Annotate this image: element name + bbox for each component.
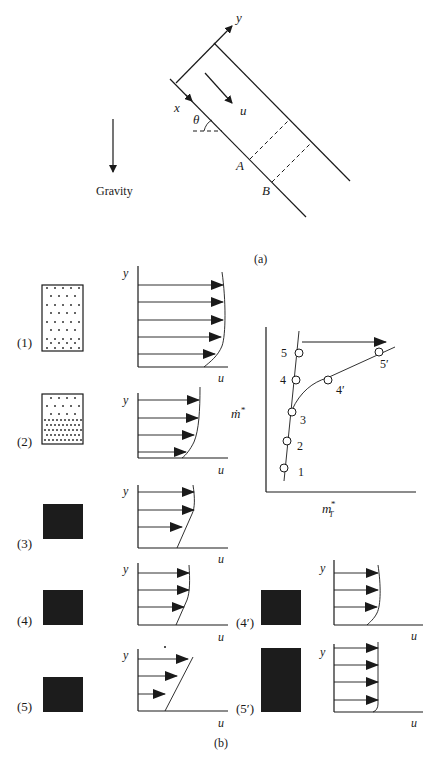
section-a-dashed bbox=[250, 120, 289, 159]
profile-2-y-label: y bbox=[122, 393, 129, 407]
state-1-label: (1) bbox=[17, 335, 32, 350]
velocity-profile-5: y u bbox=[122, 646, 228, 730]
regime-point-5 bbox=[295, 349, 303, 357]
velocity-profile-5-prime: y u bbox=[319, 642, 423, 730]
profile-1-y-label: y bbox=[122, 266, 129, 280]
velocity-profile-3: y u bbox=[122, 484, 228, 566]
regime-label-4: 4 bbox=[280, 373, 286, 387]
caption-a: (a) bbox=[254, 252, 267, 266]
state-3: (3) y u bbox=[17, 484, 228, 566]
solid-block-4-prime bbox=[261, 590, 301, 625]
velocity-profile-1: y u bbox=[122, 266, 228, 385]
state-4-label: (4) bbox=[17, 613, 32, 628]
regime-point-4 bbox=[292, 376, 300, 384]
particle-box-dilute bbox=[42, 285, 83, 351]
velocity-label: u bbox=[240, 103, 247, 118]
state-5-prime-label: (5′) bbox=[236, 701, 254, 716]
y-axis-arrow bbox=[176, 26, 232, 83]
state-5: (5) y u (b) bbox=[17, 646, 228, 750]
regime-label-1: 1 bbox=[298, 465, 304, 479]
solid-block-4 bbox=[43, 590, 83, 625]
profile-4p-u-label: u bbox=[411, 629, 417, 643]
solid-block-3 bbox=[43, 504, 83, 539]
profile-3-u-label: u bbox=[218, 552, 224, 566]
channel-upper-wall bbox=[214, 43, 350, 181]
section-b-dashed bbox=[272, 143, 311, 182]
state-2: (2) y u bbox=[17, 387, 228, 477]
state-4: (4) y u bbox=[17, 562, 228, 644]
velocity-arrow bbox=[205, 73, 232, 103]
velocity-profile-4-prime: y u bbox=[319, 560, 423, 643]
profile-4p-y-label: y bbox=[319, 561, 326, 575]
regime-label-5: 5 bbox=[281, 346, 287, 360]
x-axis-arrow bbox=[186, 95, 192, 101]
axis-x-label: x bbox=[173, 100, 180, 115]
point-b-label: B bbox=[262, 183, 270, 198]
axis-y-label: y bbox=[234, 10, 242, 25]
stray-dot bbox=[164, 646, 166, 648]
regime-x-label: m*T bbox=[322, 499, 335, 519]
regime-plot: ṁ* m*T 1 2 3 4 5 4′ 5′ bbox=[231, 327, 416, 519]
state-5-label: (5) bbox=[17, 699, 32, 714]
profile-4-y-label: y bbox=[122, 562, 129, 576]
particle-box-dense-bottom bbox=[42, 394, 83, 444]
state-4-prime-label: (4′) bbox=[236, 615, 254, 630]
regime-label-5-prime: 5′ bbox=[380, 357, 389, 371]
gravity-label: Gravity bbox=[96, 184, 133, 198]
panel-a: y x u θ A B Gravity (a) bbox=[96, 10, 350, 266]
profile-5p-u-label: u bbox=[411, 716, 417, 730]
profile-5p-y-label: y bbox=[319, 645, 326, 659]
state-1: (1) y u bbox=[17, 266, 228, 385]
regime-label-3: 3 bbox=[300, 413, 306, 427]
state-4-prime: (4′) y u bbox=[236, 560, 423, 643]
solid-block-5-prime bbox=[261, 648, 301, 712]
velocity-profile-4: y u bbox=[122, 562, 228, 644]
caption-b: (b) bbox=[214, 736, 228, 750]
point-a-label: A bbox=[235, 158, 244, 173]
figure: y x u θ A B Gravity (a) (1) bbox=[0, 0, 439, 760]
regime-point-1 bbox=[280, 464, 288, 472]
state-5-prime: (5′) y u bbox=[236, 642, 423, 730]
profile-4-u-label: u bbox=[218, 630, 224, 644]
solid-block-5 bbox=[43, 677, 83, 712]
profile-5-y-label: y bbox=[122, 648, 129, 662]
state-3-label: (3) bbox=[17, 536, 32, 551]
regime-point-5-prime bbox=[375, 348, 383, 356]
profile-1-u-label: u bbox=[218, 371, 224, 385]
regime-point-4-prime bbox=[324, 376, 332, 384]
regime-label-2: 2 bbox=[297, 439, 303, 453]
profile-2-u-label: u bbox=[218, 463, 224, 477]
regime-point-3 bbox=[288, 408, 296, 416]
regime-label-4-prime: 4′ bbox=[336, 383, 345, 397]
profile-3-y-label: y bbox=[122, 484, 129, 498]
regime-y-label: ṁ* bbox=[231, 405, 245, 421]
state-2-label: (2) bbox=[17, 434, 32, 449]
angle-label: θ bbox=[193, 112, 200, 127]
profile-5-u-label: u bbox=[218, 716, 224, 730]
velocity-profile-2: y u bbox=[122, 387, 228, 477]
regime-point-2 bbox=[283, 437, 291, 445]
angle-arc bbox=[204, 120, 212, 131]
